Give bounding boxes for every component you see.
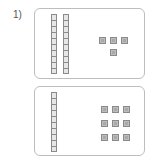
ones-cube-icon — [112, 120, 119, 127]
ones-cube-icon — [110, 37, 117, 44]
ones-cube-icon — [101, 106, 108, 113]
ones-cube-icon — [112, 106, 119, 113]
ones-cube-icon — [101, 120, 108, 127]
base-ten-card-top — [34, 8, 145, 79]
ones-cube-icon — [121, 37, 128, 44]
ones-cube-icon — [123, 106, 130, 113]
ones-cube-icon — [123, 120, 130, 127]
ones-cube-icon — [101, 134, 108, 141]
tens-rod-icon — [51, 92, 57, 152]
ones-cube-icon — [99, 37, 106, 44]
base-ten-card-bottom — [34, 86, 145, 156]
ones-cube-icon — [112, 134, 119, 141]
tens-rod-icon — [51, 14, 57, 74]
ones-cube-icon — [110, 49, 117, 56]
ones-cube-icon — [123, 134, 130, 141]
question-number: 1) — [13, 9, 22, 20]
tens-rod-icon — [63, 14, 69, 74]
